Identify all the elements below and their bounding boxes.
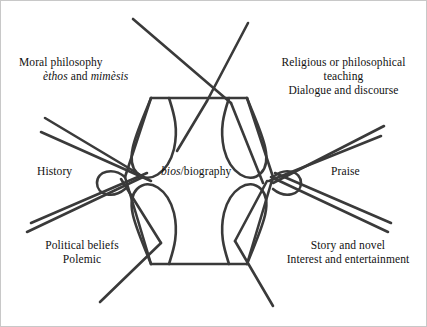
label-bios-biography-line1: bios/biography [161, 164, 231, 178]
ray-upper-right-b [269, 136, 381, 181]
ray-upper-right-a [273, 126, 384, 183]
label-religious-philosophical-teaching: Religious or philosophical teaching Dial… [266, 55, 421, 97]
term-ethos: èthos [43, 70, 68, 82]
label-political-line2: Polemic [26, 252, 138, 266]
label-political-beliefs: Political beliefs Polemic [26, 238, 138, 266]
label-story-line2: Interest and entertainment [272, 252, 424, 266]
label-bios-biography: bios/biography [161, 164, 231, 178]
label-praise-line1: Praise [331, 164, 360, 178]
term-bios: bios [161, 165, 181, 177]
ray-bottom-right [235, 241, 273, 306]
label-history: History [37, 164, 72, 178]
label-moral-philosophy: Moral philosophy èthos and mimèsis [19, 55, 128, 83]
label-history-line1: History [37, 164, 72, 178]
term-mimesis: mimèsis [91, 70, 129, 82]
term-biography: /biography [181, 165, 232, 177]
ray-lower-left-b [31, 173, 147, 223]
label-praise: Praise [331, 164, 360, 178]
ray-top-right-inner [177, 101, 207, 151]
label-story-line1: Story and novel [272, 238, 424, 252]
conjunction-and: and [68, 70, 91, 82]
label-moral-philosophy-line2: èthos and mimèsis [19, 69, 128, 83]
ray-top-right [207, 23, 248, 101]
ray-lower-right-a [275, 173, 391, 223]
label-religious-line1: Religious or philosophical [266, 55, 421, 69]
ray-top-left [133, 19, 231, 103]
diagram-canvas: Moral philosophy èthos and mimèsis Relig… [0, 0, 427, 327]
label-story-and-novel: Story and novel Interest and entertainme… [272, 238, 424, 266]
ray-lower-right-b [271, 177, 388, 232]
label-political-line1: Political beliefs [26, 238, 138, 252]
label-religious-line2: teaching [266, 69, 421, 83]
label-moral-philosophy-line1: Moral philosophy [19, 55, 128, 69]
label-religious-line3: Dialogue and discourse [266, 83, 421, 97]
